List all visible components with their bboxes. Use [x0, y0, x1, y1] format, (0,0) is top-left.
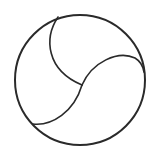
seam-top-left	[50, 17, 82, 85]
ball-outline	[15, 15, 145, 145]
seam-right	[82, 56, 144, 85]
seam-bottom-left	[33, 85, 82, 124]
icon-canvas	[0, 0, 156, 154]
volleyball-icon	[0, 0, 156, 154]
